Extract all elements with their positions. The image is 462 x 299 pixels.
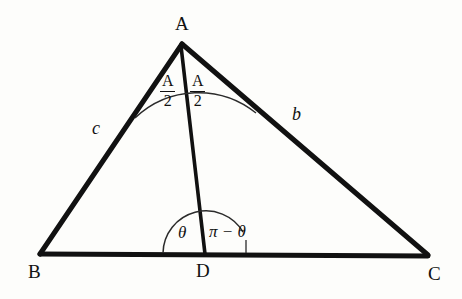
apex-angle-left-denominator: 2 xyxy=(160,92,176,110)
apex-angle-left-fraction: A 2 xyxy=(160,73,176,110)
vertex-label-a: A xyxy=(175,14,189,33)
triangle-diagram-svg xyxy=(0,0,462,299)
side-label-b: b xyxy=(292,105,301,123)
foot-angle-pi-minus-theta-label: π − θ xyxy=(209,223,246,240)
geometry-figure: A B C D c b A 2 A 2 θ π − θ xyxy=(0,0,462,299)
vertex-label-b: B xyxy=(28,262,41,281)
side-bc-baseline xyxy=(40,254,428,256)
apex-angle-left-numerator: A xyxy=(160,73,176,91)
foot-angle-theta-label: θ xyxy=(178,224,186,241)
apex-angle-right-fraction: A 2 xyxy=(190,73,206,110)
vertex-label-c: C xyxy=(428,264,441,283)
apex-angle-right-numerator: A xyxy=(190,73,206,91)
vertex-label-d: D xyxy=(196,261,210,280)
apex-angle-right-denominator: 2 xyxy=(190,92,206,110)
side-label-c: c xyxy=(92,119,100,137)
